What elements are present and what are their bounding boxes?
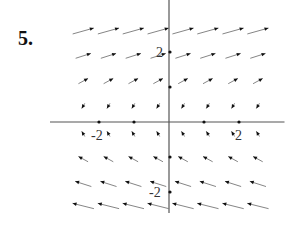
field-arrow xyxy=(228,78,238,83)
field-arrow xyxy=(206,103,210,108)
field-arrow xyxy=(203,156,213,161)
field-arrow xyxy=(123,27,144,34)
field-arrow xyxy=(128,78,138,83)
field-arrow xyxy=(225,53,240,58)
x-tick-label: 2 xyxy=(235,128,242,143)
field-arrow xyxy=(78,156,88,161)
field-arrow xyxy=(253,156,263,161)
x-tick xyxy=(97,120,100,123)
field-arrow xyxy=(153,156,163,161)
vector-field-plot: -222-2 xyxy=(0,0,293,237)
field-arrow xyxy=(75,181,91,187)
field-arrow xyxy=(153,78,163,83)
y-tick-label: 2 xyxy=(156,45,163,60)
axes xyxy=(50,0,285,213)
field-arrow xyxy=(107,103,111,108)
field-arrow xyxy=(98,27,119,34)
y-tick xyxy=(168,85,171,88)
field-arrow xyxy=(181,131,185,136)
field-arrow xyxy=(225,181,241,187)
field-arrow xyxy=(104,78,114,83)
field-arrow xyxy=(101,53,116,58)
field-arrow xyxy=(73,27,94,34)
y-tick-label: -2 xyxy=(149,185,161,200)
field-arrow xyxy=(147,203,168,209)
field-arrow xyxy=(222,27,243,34)
field-arrow xyxy=(126,53,141,58)
y-tick xyxy=(168,155,171,158)
field-arrow xyxy=(157,103,161,108)
field-arrow xyxy=(178,78,188,83)
field-arrow xyxy=(125,181,141,187)
field-arrow xyxy=(197,203,218,209)
field-arrow xyxy=(247,203,268,209)
field-arrow xyxy=(247,27,268,34)
field-arrow xyxy=(76,53,91,58)
field-arrow xyxy=(250,181,266,187)
field-arrow xyxy=(104,156,114,161)
field-arrow xyxy=(232,103,236,108)
x-tick xyxy=(237,120,240,123)
field-arrow xyxy=(132,103,136,108)
field-arrow xyxy=(175,181,191,187)
field-arrow xyxy=(256,131,260,136)
field-arrow xyxy=(178,156,188,161)
field-arrow xyxy=(200,181,216,187)
field-arrow xyxy=(132,131,136,136)
field-arrow xyxy=(206,131,210,136)
field-arrow xyxy=(228,156,238,161)
field-arrow xyxy=(157,131,161,136)
direction-field-arrows xyxy=(73,27,269,208)
field-arrow xyxy=(222,203,243,209)
x-tick xyxy=(132,120,135,123)
field-arrow xyxy=(73,203,94,209)
field-arrow xyxy=(256,103,260,108)
field-arrow xyxy=(175,53,190,58)
field-arrow xyxy=(250,53,265,58)
field-arrow xyxy=(200,53,215,58)
x-tick-label: -2 xyxy=(91,128,103,143)
field-arrow xyxy=(203,78,213,83)
field-arrow xyxy=(253,78,263,83)
field-arrow xyxy=(128,156,138,161)
field-arrow xyxy=(123,203,144,209)
x-tick xyxy=(202,120,205,123)
field-arrow xyxy=(172,27,193,34)
field-arrow xyxy=(82,103,86,108)
field-arrow xyxy=(172,203,193,209)
field-arrow xyxy=(181,103,185,108)
field-arrow xyxy=(82,131,86,136)
y-tick xyxy=(168,190,171,193)
field-arrow xyxy=(78,78,88,83)
field-arrow xyxy=(100,181,116,187)
field-arrow xyxy=(98,203,119,209)
field-arrow xyxy=(107,131,111,136)
field-arrow xyxy=(148,27,169,34)
y-tick xyxy=(168,50,171,53)
field-arrow xyxy=(197,27,218,34)
